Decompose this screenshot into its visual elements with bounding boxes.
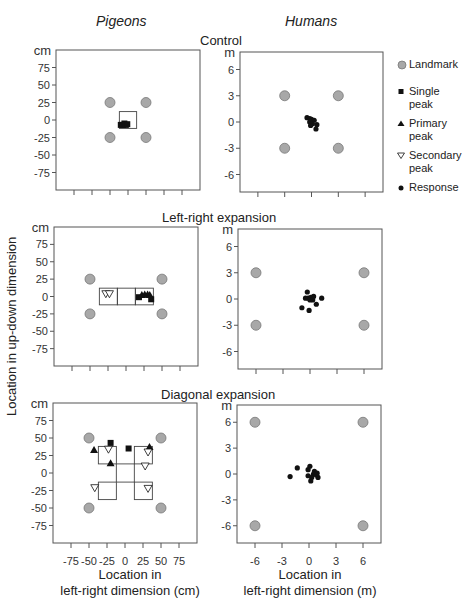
landmark-marker bbox=[85, 309, 95, 319]
x-tick-label: -25 bbox=[99, 555, 115, 567]
y-tick-label: -25 bbox=[34, 132, 50, 144]
landmark-marker bbox=[250, 521, 260, 531]
legend-item-single-peak: Singlepeak bbox=[397, 85, 473, 111]
response-marker bbox=[314, 472, 319, 477]
y-tick-label: 50 bbox=[35, 432, 47, 444]
y-tick-label: 0 bbox=[225, 468, 231, 480]
panel-pigeons-control: cm7550250-25-50-75 bbox=[0, 40, 210, 205]
x-axis-label-humans-line1: Location in bbox=[225, 567, 395, 583]
landmark-marker bbox=[358, 521, 368, 531]
y-tick-label: 50 bbox=[38, 79, 50, 91]
y-unit-label: m bbox=[222, 222, 233, 237]
y-tick-label: 3 bbox=[226, 267, 232, 279]
panel-pigeons-left-right-expansion: cm7550250-25-50-75 bbox=[0, 217, 210, 382]
x-tick-label: -50 bbox=[81, 555, 97, 567]
x-tick-label: -75 bbox=[63, 555, 79, 567]
column-title-humans: Humans bbox=[285, 13, 337, 29]
y-tick-label: 25 bbox=[36, 273, 48, 285]
response-marker bbox=[314, 122, 319, 127]
y-tick-label: 6 bbox=[228, 64, 234, 76]
x-axis-label-pigeons: Location in left-right dimension (cm) bbox=[40, 567, 220, 599]
response-marker bbox=[308, 478, 313, 483]
panel-humans-control: m630-3-6 bbox=[215, 40, 390, 205]
plot-frame bbox=[56, 50, 200, 190]
landmark-marker bbox=[157, 274, 167, 284]
y-tick-label: -3 bbox=[222, 319, 232, 331]
response-marker bbox=[288, 474, 293, 479]
response-marker bbox=[306, 467, 311, 472]
y-tick-label: 3 bbox=[228, 90, 234, 102]
square-icon bbox=[397, 85, 409, 100]
legend-label-primary-peak: Primarypeak bbox=[409, 117, 447, 143]
legend-label-primary-peak-line1: Primary bbox=[409, 117, 447, 129]
landmark-marker bbox=[157, 309, 167, 319]
landmark-marker bbox=[84, 503, 94, 513]
y-tick-label: 0 bbox=[44, 114, 50, 126]
landmark-marker bbox=[156, 433, 166, 443]
y-tick-label: -75 bbox=[34, 167, 50, 179]
column-title-pigeons: Pigeons bbox=[96, 13, 147, 29]
landmark-marker bbox=[105, 133, 115, 143]
x-tick-label: 0 bbox=[122, 555, 128, 567]
x-tick-label: 50 bbox=[155, 555, 167, 567]
y-tick-label: -3 bbox=[221, 494, 231, 506]
response-marker bbox=[308, 123, 313, 128]
x-tick-label: 75 bbox=[173, 555, 185, 567]
x-tick-label: -3 bbox=[277, 555, 287, 567]
plot-frame bbox=[53, 403, 197, 543]
dot-icon bbox=[397, 181, 409, 196]
y-tick-label: -50 bbox=[32, 325, 48, 337]
response-marker bbox=[295, 465, 300, 470]
landmark-icon bbox=[397, 58, 409, 73]
x-axis-label-humans-line2: left-right dimension (m) bbox=[225, 583, 395, 599]
y-tick-label: 75 bbox=[36, 238, 48, 250]
y-tick-label: -6 bbox=[222, 346, 232, 358]
response-marker bbox=[319, 296, 324, 301]
y-tick-label: 6 bbox=[225, 416, 231, 428]
legend-label-primary-peak-line2: peak bbox=[409, 130, 433, 142]
landmark-marker bbox=[280, 143, 290, 153]
y-tick-label: -50 bbox=[31, 502, 47, 514]
response-marker bbox=[299, 305, 304, 310]
y-tick-label: 0 bbox=[42, 291, 48, 303]
landmark-marker bbox=[333, 143, 343, 153]
legend-label-single-peak-line1: Single bbox=[409, 85, 440, 97]
x-axis-label-humans: Location in left-right dimension (m) bbox=[225, 567, 395, 599]
y-unit-label: cm bbox=[31, 396, 48, 411]
legend-label-secondary-peak-line1: Secondary bbox=[409, 149, 462, 161]
response-marker bbox=[305, 289, 310, 294]
legend-item-secondary-peak: Secondarypeak bbox=[397, 149, 473, 175]
y-unit-label: m bbox=[221, 398, 232, 413]
response-marker bbox=[307, 308, 312, 313]
legend-label-secondary-peak-line2: peak bbox=[409, 162, 433, 174]
y-tick-label: -25 bbox=[31, 485, 47, 497]
y-tick-label: 75 bbox=[35, 415, 47, 427]
y-tick-label: -50 bbox=[34, 149, 50, 161]
legend-item-landmark: Landmark bbox=[397, 58, 473, 73]
x-axis-label-pigeons-line1: Location in bbox=[40, 567, 220, 583]
y-unit-label: cm bbox=[34, 43, 51, 58]
x-axis-label-pigeons-line2: left-right dimension (cm) bbox=[40, 583, 220, 599]
single-peak-marker bbox=[108, 440, 114, 446]
x-tick-label: 6 bbox=[360, 555, 366, 567]
landmark-marker bbox=[333, 91, 343, 101]
panel-humans-left-right-expansion: m630-3-6 bbox=[215, 217, 390, 382]
legend-item-response: Response bbox=[397, 181, 473, 196]
landmark-marker bbox=[141, 98, 151, 108]
landmark-marker bbox=[105, 98, 115, 108]
legend-label-landmark: Landmark bbox=[409, 58, 458, 71]
single-peak-marker bbox=[124, 121, 130, 127]
panel-humans-diagonal-expansion: m630-3-6-6-3036 bbox=[215, 393, 390, 583]
legend-item-primary-peak: Primarypeak bbox=[397, 117, 473, 143]
y-tick-label: 6 bbox=[226, 241, 232, 253]
x-tick-label: -6 bbox=[250, 555, 260, 567]
y-tick-label: -6 bbox=[224, 169, 234, 181]
y-unit-label: cm bbox=[32, 220, 49, 235]
triangle-up-icon bbox=[397, 117, 409, 132]
legend-label-single-peak: Singlepeak bbox=[409, 85, 440, 111]
x-tick-label: 0 bbox=[306, 555, 312, 567]
landmark-marker bbox=[280, 91, 290, 101]
x-tick-label: 25 bbox=[137, 555, 149, 567]
landmark-marker bbox=[84, 433, 94, 443]
landmark-marker bbox=[358, 417, 368, 427]
